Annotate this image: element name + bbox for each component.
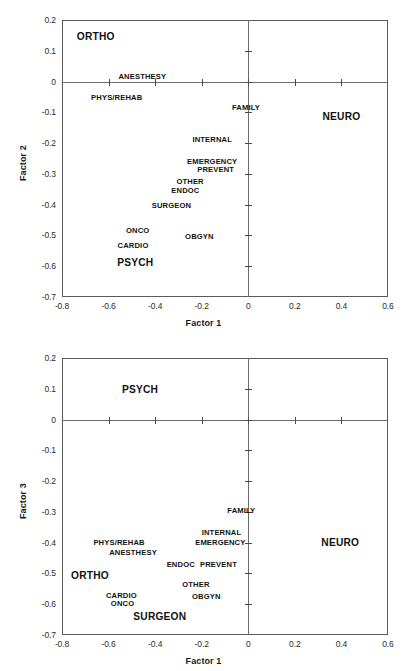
x-zero-axis-line [62,420,388,421]
y-axis-tick [245,82,252,83]
x-axis-tick-label: 0.4 [336,639,348,649]
x-axis-tick [202,417,203,424]
x-axis-tick-label: -0.2 [195,301,209,311]
y-axis-tick-label: -0.5 [22,568,56,578]
y-axis-tick [245,112,252,113]
data-point-label: FAMILY [232,102,260,111]
data-point-label: ENDOC [171,185,199,194]
x-axis-tick [202,79,203,86]
y-axis-tick-label: -0.5 [22,230,56,240]
x-axis-tick [295,417,296,424]
data-point-label: ANESTHESY [109,547,157,556]
y-axis-tick [245,543,252,544]
y-axis-tick-label: 0.2 [22,353,56,363]
data-point-label: ONCO [111,599,134,608]
y-axis-title: Factor 2 [18,145,28,181]
data-point-label: NEURO [323,111,361,122]
data-point-label: ONCO [126,225,149,234]
x-axis-title: Factor 1 [0,656,407,666]
y-axis-tick [245,174,252,175]
y-axis-tick-label: 0.1 [22,46,56,56]
data-point-label: ANESTHESY [118,72,166,81]
data-point-label: PHYS/REHAB [93,538,144,547]
y-axis-tick [245,235,252,236]
y-axis-tick [245,389,252,390]
y-axis-tick-label: -0.7 [22,630,56,640]
x-axis-tick-label: 0 [246,301,251,311]
x-axis-tick-label: 0.6 [382,301,394,311]
y-axis-tick-label: 0 [22,415,56,425]
x-axis-tick [155,417,156,424]
x-axis-tick-label: 0 [246,639,251,649]
figure-page: -0.8-0.6-0.4-0.200.20.40.60.20.10-0.1-0.… [0,0,407,671]
y-zero-axis-line [248,20,249,297]
x-axis-tick [295,79,296,86]
data-point-label: OTHER [182,580,209,589]
scatter-chart-factor1-factor2: -0.8-0.6-0.4-0.200.20.40.60.20.10-0.1-0.… [0,0,407,340]
y-axis-tick [245,143,252,144]
x-axis-tick-label: -0.6 [101,639,115,649]
data-point-label: OBGYN [185,232,214,241]
data-point-label: CARDIO [118,240,149,249]
y-axis-tick-label: 0 [22,77,56,87]
y-zero-axis-line [248,358,249,635]
x-axis-title: Factor 1 [0,318,407,328]
y-axis-tick [245,481,252,482]
x-axis-tick [341,417,342,424]
data-point-label: EMERGENCY [195,538,245,547]
data-point-label: OTHER [176,176,203,185]
data-point-label: PSYCH [117,256,153,267]
x-axis-tick-label: -0.8 [55,639,69,649]
y-axis-tick-label: -0.4 [22,538,56,548]
scatter-chart-factor1-factor3: -0.8-0.6-0.4-0.200.20.40.60.20.10-0.1-0.… [0,340,407,671]
y-axis-tick [245,450,252,451]
y-axis-tick [245,604,252,605]
y-axis-tick-label: 0.1 [22,384,56,394]
y-axis-tick-label: -0.1 [22,107,56,117]
data-point-label: OBGYN [192,591,221,600]
y-axis-tick [245,420,252,421]
data-point-label: SURGEON [152,200,191,209]
y-axis-tick [245,266,252,267]
x-axis-tick [341,79,342,86]
y-axis-tick-label: 0.2 [22,15,56,25]
data-point-label: PREVENT [200,559,237,568]
x-axis-tick-label: 0.6 [382,639,394,649]
data-point-label: PREVENT [197,165,234,174]
data-point-label: PSYCH [122,384,158,395]
data-point-label: ORTHO [77,31,115,42]
y-axis-tick-label: -0.1 [22,445,56,455]
data-point-label: SURGEON [133,610,186,621]
x-axis-tick-label: 0.2 [289,301,301,311]
y-axis-tick [245,51,252,52]
x-axis-tick-label: 0.4 [336,301,348,311]
y-axis-tick [245,573,252,574]
x-axis-tick [109,79,110,86]
x-axis-tick [109,417,110,424]
x-axis-tick-label: -0.6 [101,301,115,311]
y-axis-tick-label: -0.7 [22,292,56,302]
data-point-label: ENDOC [167,559,195,568]
data-point-label: NEURO [321,537,359,548]
x-axis-tick-label: -0.4 [148,639,162,649]
data-point-label: INTERNAL [202,527,242,536]
y-axis-title: Factor 3 [18,483,28,519]
y-axis-tick-label: -0.4 [22,200,56,210]
data-point-label: INTERNAL [192,135,232,144]
x-axis-tick-label: -0.4 [148,301,162,311]
data-point-label: ORTHO [71,569,109,580]
y-axis-tick-label: -0.6 [22,599,56,609]
data-point-label: PHYS/REHAB [91,92,142,101]
y-axis-tick [245,205,252,206]
x-axis-tick-label: -0.2 [195,639,209,649]
x-zero-axis-line [62,82,388,83]
x-axis-tick-label: -0.8 [55,301,69,311]
y-axis-tick-label: -0.6 [22,261,56,271]
x-axis-tick-label: 0.2 [289,639,301,649]
data-point-label: FAMILY [227,506,255,515]
